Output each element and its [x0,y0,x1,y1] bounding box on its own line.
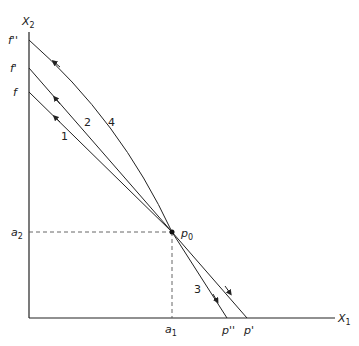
curve-label-2: 2 [84,116,91,129]
x-axis-label: X1 [337,312,351,327]
y-axis-label: X2 [21,15,35,30]
curve-label-3: 3 [194,283,201,296]
curve-label-4: 4 [108,116,115,129]
label-p-double-prime: p'' [221,324,235,337]
label-f: f [13,86,19,99]
arrow-line-1 [55,117,60,122]
curve-label-1: 1 [61,130,68,143]
label-p0: p0 [180,227,193,242]
diagram-canvas: X2 X1 f'' f' f a2 a1 p'' p' p0 1 2 4 3 [0,0,359,346]
label-a2: a2 [11,226,23,241]
arrow-line-2-lower [225,286,230,293]
line-1 [29,92,172,232]
point-p0 [170,230,175,235]
label-a1: a1 [165,323,177,338]
label-f-prime: f' [10,62,17,75]
line-2 [29,68,247,318]
line-3 [172,232,227,318]
label-p-prime: p' [243,324,254,337]
curve-4 [29,40,172,232]
arrow-line-2 [55,98,60,104]
label-f-double-prime: f'' [8,34,18,47]
